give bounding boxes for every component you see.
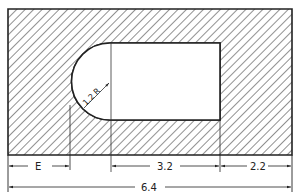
engineering-drawing: 1.2 R E 3.2 2.2 6.4 — [0, 0, 297, 195]
slot-outline — [72, 43, 220, 120]
dim-e-label: E — [35, 161, 41, 172]
dim-overall-label: 6.4 — [141, 182, 157, 193]
dim-right-label: 2.2 — [250, 161, 266, 172]
dim-slot-label: 3.2 — [157, 161, 173, 172]
